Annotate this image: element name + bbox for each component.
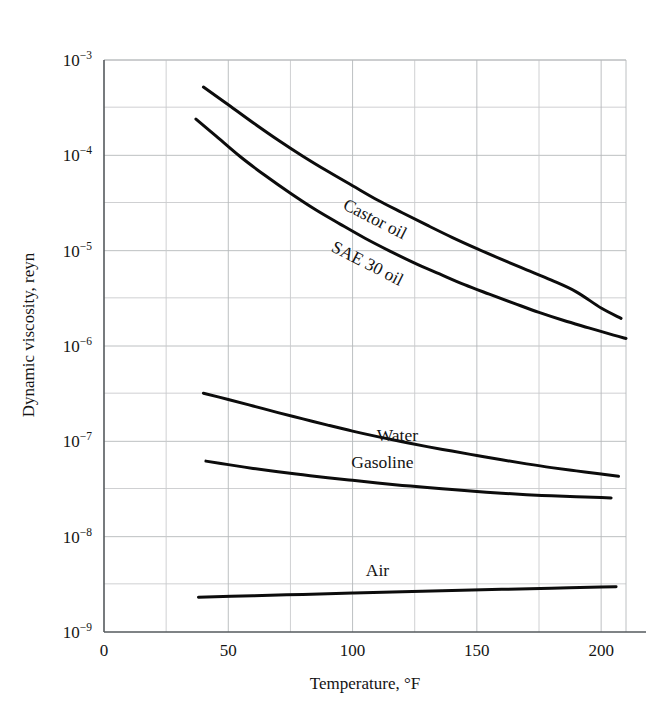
y-tick-label-1: 10−8 (63, 526, 92, 547)
grid-layer (104, 60, 626, 632)
x-tick-label-4: 200 (588, 641, 614, 660)
chart-svg: 10−910−810−710−610−510−410−3050100150200… (0, 0, 662, 714)
tick-labels-layer: 10−910−810−710−610−510−410−3050100150200 (63, 49, 614, 660)
y-tick-label-6: 10−3 (63, 49, 92, 70)
curve-air (198, 587, 616, 598)
y-tick-label-2: 10−7 (63, 430, 92, 451)
x-tick-label-0: 0 (100, 641, 109, 660)
y-tick-label-0: 10−9 (63, 621, 92, 642)
x-tick-label-2: 100 (340, 641, 366, 660)
curve-label-sae-30-oil: SAE 30 oil (329, 237, 408, 290)
x-axis-title: Temperature, °F (310, 674, 420, 693)
y-tick-label-4: 10−5 (63, 240, 92, 261)
curve-label-gasoline: Gasoline (351, 452, 413, 472)
curve-labels-layer: Castor oilSAE 30 oilWaterGasolineAir (329, 194, 419, 579)
y-tick-label-5: 10−4 (63, 144, 92, 165)
curve-sae-30-oil (196, 119, 626, 338)
curve-label-water: Water (377, 425, 419, 445)
viscosity-chart-figure: 10−910−810−710−610−510−410−3050100150200… (0, 0, 662, 714)
curve-label-air: Air (366, 560, 390, 580)
curve-label-castor-oil: Castor oil (340, 194, 410, 243)
x-tick-label-1: 50 (220, 641, 237, 660)
y-axis-title: Dynamic viscosity, reyn (19, 252, 38, 417)
curves-layer (196, 87, 626, 597)
x-tick-label-3: 150 (464, 641, 490, 660)
y-tick-label-3: 10−6 (63, 335, 92, 356)
